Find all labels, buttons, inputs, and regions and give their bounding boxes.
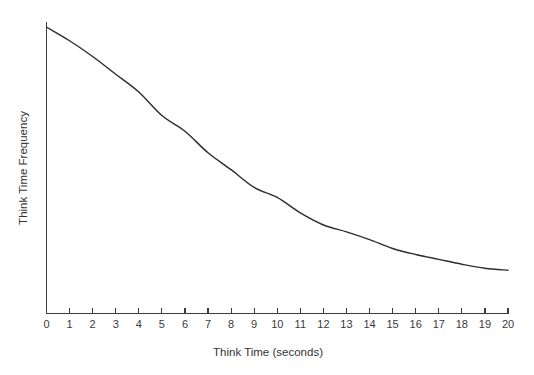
x-axis-ticks (47, 308, 509, 314)
x-axis-tick-label: 10 (271, 318, 283, 330)
x-axis-tick-label: 18 (456, 318, 468, 330)
x-axis-tick-label: 0 (43, 318, 49, 330)
x-axis-tick-label: 3 (113, 318, 119, 330)
x-axis-tick-label: 7 (205, 318, 211, 330)
chart-plot-area: 01234567891011121314151617181920 Think T… (0, 0, 534, 375)
x-axis-title: Think Time (seconds) (213, 346, 323, 358)
x-axis-tick-labels: 01234567891011121314151617181920 (43, 318, 514, 330)
x-axis-tick-label: 4 (136, 318, 142, 330)
x-axis-tick-label: 19 (479, 318, 491, 330)
y-axis-title: Think Time Frequency (17, 111, 29, 225)
x-axis-tick-label: 12 (317, 318, 329, 330)
x-axis-tick-label: 5 (159, 318, 165, 330)
x-axis-tick-label: 20 (502, 318, 514, 330)
x-axis-tick-label: 16 (410, 318, 422, 330)
x-axis-tick-label: 8 (228, 318, 234, 330)
x-axis-tick-label: 13 (340, 318, 352, 330)
x-axis-tick-label: 15 (387, 318, 399, 330)
x-axis-tick-label: 2 (90, 318, 96, 330)
data-series-line (47, 27, 509, 270)
x-axis-tick-label: 11 (295, 318, 306, 330)
x-axis-tick-label: 9 (251, 318, 257, 330)
x-axis-tick-label: 17 (433, 318, 445, 330)
axes-group (46, 22, 508, 314)
x-axis-tick-label: 14 (363, 318, 375, 330)
x-axis-tick-label: 1 (67, 318, 73, 330)
chart-figure: 01234567891011121314151617181920 Think T… (0, 0, 534, 375)
x-axis-tick-label: 6 (182, 318, 188, 330)
